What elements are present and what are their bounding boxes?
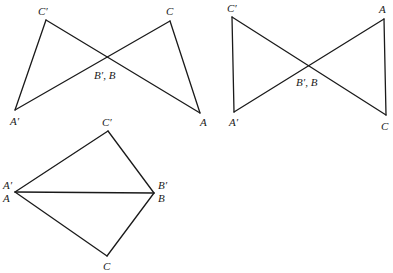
vertex-label: B′	[158, 179, 168, 191]
vertex-label: B′, B	[296, 76, 318, 88]
edge-C_prime-A_prime	[232, 17, 234, 112]
edge-A_prime-C_prime	[15, 20, 46, 110]
vertex-label: C	[166, 5, 174, 17]
edge-A-B	[15, 192, 154, 193]
vertex-label: A	[199, 116, 207, 128]
vertex-label: B′, B	[94, 69, 116, 81]
vertex-label: A′	[9, 115, 20, 127]
vertex-label: A	[378, 3, 386, 15]
vertex-label: C	[381, 120, 389, 132]
vertex-label: C′	[38, 5, 48, 17]
edge-C_prime-A	[46, 20, 200, 113]
edge-C-A	[170, 21, 200, 113]
bottom-kite: C′A′AB′BC	[2, 116, 168, 272]
vertex-label: C′	[102, 116, 112, 128]
vertex-label: C′	[227, 2, 237, 14]
vertex-label: A	[2, 192, 10, 204]
vertex-label: B	[158, 192, 165, 204]
geometry-diagram: C′CA′AB′, BC′AA′CB′, BC′A′AB′BC	[0, 0, 393, 273]
edge-A-C_prime	[15, 131, 108, 192]
edge-C-B	[107, 193, 154, 256]
edge-C_prime-B	[108, 131, 154, 193]
edge-A-C	[384, 19, 386, 115]
top-right-bowtie: C′AA′CB′, B	[227, 2, 389, 132]
vertex-label: A′	[2, 179, 13, 191]
vertex-label: C	[103, 260, 111, 272]
edge-A-C	[15, 192, 107, 256]
edge-A_prime-C	[15, 21, 170, 110]
vertex-label: A′	[228, 116, 239, 128]
top-left-bowtie: C′CA′AB′, B	[9, 5, 207, 128]
